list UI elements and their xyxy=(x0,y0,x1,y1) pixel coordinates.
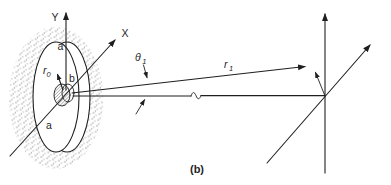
outer-radius-label-bottom: a xyxy=(46,119,52,131)
annular-aperture-diffraction-diagram: Y X a b a r0 θ1 r1 (b) xyxy=(0,0,391,185)
r1-vector xyxy=(72,67,305,94)
outer-radius-label-top: a xyxy=(58,40,64,52)
sine-wave-break-icon xyxy=(191,93,201,99)
x-axis-label: X xyxy=(121,27,128,39)
inner-radius-label: b xyxy=(69,72,75,84)
y-axis-label: Y xyxy=(51,11,58,23)
theta1-arrow-upper xyxy=(144,65,148,78)
observation-point-vector xyxy=(316,73,326,97)
theta1-label: θ1 xyxy=(135,51,146,66)
aperture-disk xyxy=(33,42,90,152)
screen-oblique-axis xyxy=(267,45,370,163)
r1-label: r1 xyxy=(224,58,233,73)
diagram-canvas: Y X a b a r0 θ1 r1 (b) xyxy=(0,0,391,185)
subfigure-caption: (b) xyxy=(190,163,204,175)
theta1-arrow-lower xyxy=(136,100,145,114)
